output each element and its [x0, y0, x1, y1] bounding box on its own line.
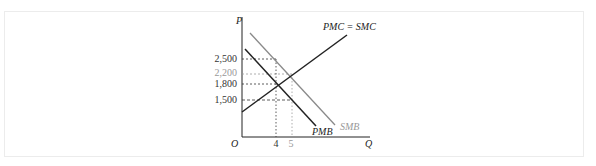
tick-1500: 1,500	[215, 94, 238, 105]
smb-label: SMB	[340, 121, 359, 132]
pmb-label: PMB	[311, 126, 333, 137]
origin-label: O	[231, 138, 238, 149]
tick-1800: 1,800	[215, 78, 238, 89]
p-axis-label: P	[235, 15, 242, 26]
pmb-curve	[245, 49, 316, 126]
tick-2500: 2,500	[215, 53, 238, 64]
q-axis-label: Q	[365, 138, 373, 149]
pmc-smc-curve	[242, 35, 347, 112]
tick-q5: 5	[289, 138, 294, 149]
tick-2200: 2,200	[215, 67, 238, 78]
smb-curve	[250, 33, 335, 125]
tick-q4: 4	[274, 138, 279, 149]
externality-diagram: P Q O 2,500 2,200 1,800 1,500 4 5 PMC = …	[0, 0, 596, 166]
pmc-smc-label: PMC = SMC	[322, 21, 376, 32]
